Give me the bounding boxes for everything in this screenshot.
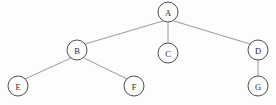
tree-node-a[interactable]: A — [158, 2, 178, 22]
tree-node-b[interactable]: B — [67, 40, 87, 60]
edges-group — [25, 21, 258, 79]
tree-node-e[interactable]: E — [8, 76, 28, 96]
tree-edge-a-d — [174, 21, 250, 44]
tree-node-label-d: D — [255, 46, 261, 56]
nodes-group: ABCDEFG — [8, 2, 268, 96]
tree-edge-b-f — [84, 58, 127, 79]
tree-node-c[interactable]: C — [158, 43, 178, 63]
tree-diagram-svg: ABCDEFG — [0, 0, 276, 105]
tree-node-label-b: B — [74, 46, 80, 56]
tree-edge-b-e — [25, 58, 71, 79]
tree-node-label-g: G — [255, 82, 261, 92]
tree-node-label-e: E — [15, 82, 20, 92]
tree-node-label-a: A — [165, 8, 172, 18]
tree-node-g[interactable]: G — [248, 76, 268, 96]
tree-node-label-f: F — [132, 82, 137, 92]
tree-edge-a-b — [85, 21, 163, 44]
tree-node-d[interactable]: D — [248, 40, 268, 60]
tree-node-f[interactable]: F — [124, 76, 144, 96]
tree-diagram-canvas: ABCDEFG — [0, 0, 276, 105]
tree-node-label-c: C — [165, 49, 171, 59]
